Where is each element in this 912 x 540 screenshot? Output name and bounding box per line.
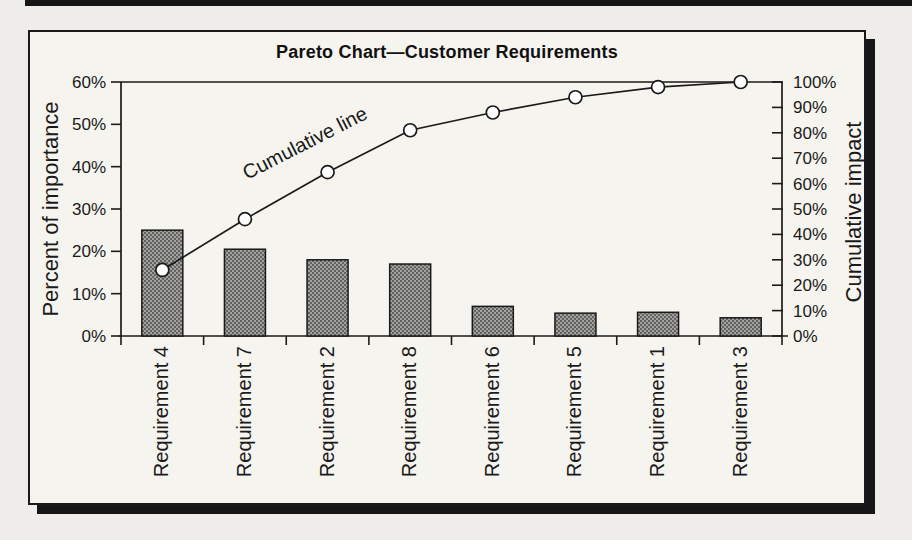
left-axis-tick-label: 40% xyxy=(72,158,106,177)
cumulative-point-2 xyxy=(238,213,251,226)
cumulative-point-1 xyxy=(156,263,169,276)
bar-requirement-5 xyxy=(555,313,596,336)
cumulative-point-4 xyxy=(404,124,417,137)
x-category-label: Requirement 6 xyxy=(481,346,503,477)
right-axis-tick-label: 30% xyxy=(793,251,827,270)
left-axis-tick-label: 0% xyxy=(81,327,106,346)
right-axis-tick-label: 70% xyxy=(793,149,827,168)
right-axis-tick-label: 10% xyxy=(793,302,827,321)
bar-requirement-7 xyxy=(224,249,265,336)
cumulative-point-8 xyxy=(734,76,747,89)
x-category-label: Requirement 1 xyxy=(646,346,668,477)
cumulative-line-annotation: Cumulative line xyxy=(239,102,371,184)
right-axis-tick-label: 50% xyxy=(793,200,827,219)
bar-requirement-8 xyxy=(390,264,431,336)
x-category-label: Requirement 7 xyxy=(233,346,255,477)
x-category-label: Requirement 3 xyxy=(729,346,751,477)
left-axis-tick-label: 30% xyxy=(72,200,106,219)
cumulative-point-7 xyxy=(652,81,665,94)
x-category-label: Requirement 8 xyxy=(398,346,420,477)
left-axis-tick-label: 60% xyxy=(72,73,106,92)
left-axis-tick-label: 10% xyxy=(72,285,106,304)
bar-requirement-4 xyxy=(142,230,183,336)
right-axis-tick-label: 90% xyxy=(793,98,827,117)
left-axis-tick-label: 50% xyxy=(72,115,106,134)
right-axis-tick-label: 40% xyxy=(793,225,827,244)
bar-requirement-6 xyxy=(472,306,513,336)
x-category-label: Requirement 2 xyxy=(316,346,338,477)
left-axis-tick-label: 20% xyxy=(72,242,106,261)
x-category-label: Requirement 4 xyxy=(150,346,172,477)
right-axis-tick-label: 60% xyxy=(793,175,827,194)
cumulative-point-6 xyxy=(569,91,582,104)
right-axis-title: Cumulative impact xyxy=(841,122,866,303)
bar-requirement-2 xyxy=(307,260,348,336)
left-axis-title: Percent of importance xyxy=(38,101,63,316)
right-axis-tick-label: 0% xyxy=(793,327,818,346)
cumulative-point-3 xyxy=(321,166,334,179)
right-axis-tick-label: 20% xyxy=(793,276,827,295)
x-category-label: Requirement 5 xyxy=(563,346,585,477)
right-axis-tick-label: 100% xyxy=(793,73,836,92)
pareto-chart-svg: 0%10%20%30%40%50%60%0%10%20%30%40%50%60%… xyxy=(0,0,912,540)
bar-requirement-1 xyxy=(638,312,679,336)
right-axis-tick-label: 80% xyxy=(793,124,827,143)
cumulative-point-5 xyxy=(486,106,499,119)
bar-requirement-3 xyxy=(720,318,761,336)
